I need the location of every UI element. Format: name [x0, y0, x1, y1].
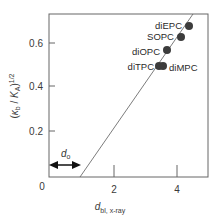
d-o-arrow — [49, 161, 81, 169]
point-label: diOPC — [132, 46, 160, 57]
x-tick-label: 0 — [39, 181, 45, 192]
x-tick-label: 4 — [174, 184, 180, 195]
point-label: diTPC — [128, 61, 155, 72]
x-ticks — [114, 165, 177, 177]
point-label: diEPC — [155, 20, 182, 31]
point-diOPC — [163, 46, 171, 54]
chart: 0.2 0.4 0.6 0 2 4 diEPC SOPC diOPC diTPC… — [0, 0, 220, 220]
point-diEPC — [185, 22, 193, 30]
d-o-label: do — [61, 148, 71, 160]
x-tick-label: 2 — [111, 184, 117, 195]
y-axis-label: (κb / KA)1/2 — [8, 73, 21, 118]
fit-line — [80, 14, 193, 177]
point-diMPC — [159, 62, 167, 70]
point-label: diMPC — [169, 62, 198, 73]
y-tick-label: 0.2 — [29, 126, 43, 137]
point-label: SOPC — [147, 31, 174, 42]
y-tick-label: 0.6 — [29, 38, 43, 49]
x-axis-label: dbl, x-ray — [95, 201, 126, 215]
y-ticks — [49, 43, 55, 131]
point-SOPC — [177, 33, 185, 41]
y-tick-label: 0.4 — [29, 81, 43, 92]
